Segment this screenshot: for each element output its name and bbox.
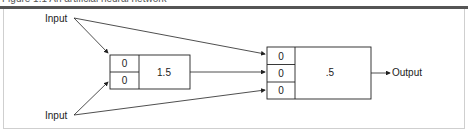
output-label: Output [392, 67, 422, 78]
node2-weight-3: 0 [278, 85, 284, 96]
node2-threshold: .5 [326, 67, 335, 78]
input-label-bottom: Input [45, 110, 67, 121]
neural-network-diagram: Input Input Output 0 0 1.5 0 0 0 .5 [0, 0, 468, 133]
edge-input2-node1 [74, 82, 108, 115]
edge-input1-node2 [74, 18, 265, 54]
node1-weight-1: 0 [122, 58, 128, 69]
node2-weight-1: 0 [278, 51, 284, 62]
node1-threshold: 1.5 [157, 67, 171, 78]
node1-weight-2: 0 [122, 75, 128, 86]
input-label-top: Input [45, 13, 67, 24]
node2-weight-2: 0 [278, 68, 284, 79]
edge-input2-node2 [74, 90, 265, 115]
